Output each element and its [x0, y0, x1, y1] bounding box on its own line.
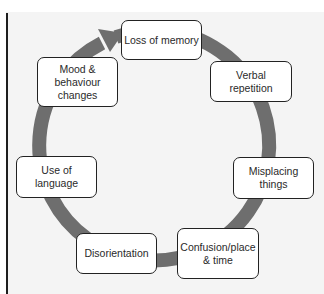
node-misplacing-things: Misplacing things — [233, 157, 314, 199]
node-mood-behaviour-changes: Mood & behaviour changes — [37, 57, 118, 107]
node-loss-of-memory: Loss of memory — [121, 20, 202, 60]
node-use-of-language: Use of language — [16, 156, 97, 198]
node-confusion-place-time: Confusion/place & time — [177, 228, 259, 279]
node-disorientation: Disorientation — [76, 233, 157, 274]
node-verbal-repetition: Verbal repetition — [210, 61, 292, 102]
